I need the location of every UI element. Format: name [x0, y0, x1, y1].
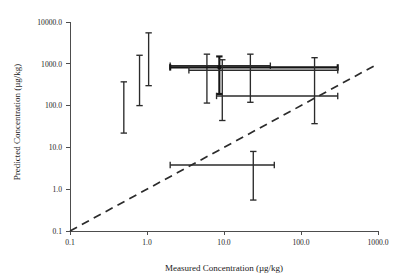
y-tick-label-2: 10.0: [49, 143, 62, 152]
error-bar-p3: [145, 33, 151, 86]
data-point-marker-p5: [217, 65, 221, 69]
error-bar-p7: [247, 54, 253, 102]
error-bars-group: [121, 33, 338, 200]
x-tick-label-4: 1000.0: [368, 238, 389, 247]
error-bar-p2: [136, 55, 142, 105]
error-bar-p9: [170, 151, 274, 200]
error-bar-p6: [189, 60, 338, 121]
x-axis-title: Measured Concentration (µg/kg): [165, 263, 283, 273]
identity-line: [70, 64, 378, 231]
x-tick-label-1: 1.0: [142, 238, 152, 247]
scatter-plot-svg: 0.11.010.0100.01000.0 0.11.010.0100.0100…: [0, 0, 394, 278]
axes-group: [70, 22, 378, 231]
y-tick-labels: 0.11.010.0100.01000.010000.0: [37, 18, 62, 236]
chart-container: 0.11.010.0100.01000.0 0.11.010.0100.0100…: [0, 0, 394, 278]
x-tick-label-0: 0.1: [65, 238, 75, 247]
y-tick-label-5: 10000.0: [37, 18, 62, 27]
y-axis-title: Predicted Concentration (µg/kg): [12, 64, 22, 181]
y-tick-label-1: 1.0: [53, 185, 63, 194]
identity-reference-line: [70, 64, 378, 231]
axis-spine: [70, 22, 378, 231]
error-bar-p1: [121, 82, 127, 133]
tick-marks-group: [66, 22, 378, 235]
x-tick-label-2: 10.0: [217, 238, 230, 247]
error-bar-p5: [170, 56, 338, 94]
y-tick-label-4: 1000.0: [41, 60, 62, 69]
y-tick-label-0: 0.1: [53, 227, 63, 236]
x-tick-labels: 0.11.010.0100.01000.0: [65, 238, 388, 247]
x-tick-label-3: 100.0: [292, 238, 309, 247]
y-tick-label-3: 100.0: [45, 101, 62, 110]
